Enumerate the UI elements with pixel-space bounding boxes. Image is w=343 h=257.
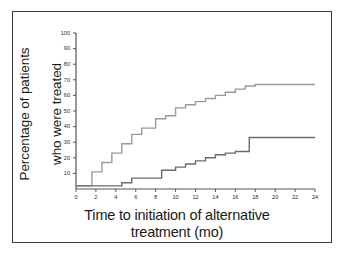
axis-lines — [76, 33, 315, 189]
x-tick-label: 20 — [269, 194, 281, 200]
x-tick-label: 8 — [150, 194, 162, 200]
y-tick-label: 40 — [56, 123, 70, 129]
x-tick-label: 14 — [209, 194, 221, 200]
y-tick-label: 60 — [56, 92, 70, 98]
y-tick-label: 50 — [56, 108, 70, 114]
x-tick-label: 12 — [190, 194, 202, 200]
x-tick-label: 0 — [70, 194, 82, 200]
x-axis-label-line1: Time to initiation of alternative — [41, 207, 313, 224]
chart-frame: Percentage of patients who were treated … — [12, 11, 332, 243]
series-upper-curve — [76, 84, 315, 185]
y-tick-label: 20 — [56, 155, 70, 161]
y-tick-label: 80 — [56, 61, 70, 67]
x-tick-label: 22 — [289, 194, 301, 200]
x-axis-label-line2: treatment (mo) — [41, 224, 313, 241]
x-axis-label: Time to initiation of alternative treatm… — [41, 207, 313, 241]
x-tick-label: 18 — [249, 194, 261, 200]
y-tick-label: 70 — [56, 77, 70, 83]
data-series-group — [76, 84, 315, 185]
x-tick-label: 16 — [229, 194, 241, 200]
x-tick-label: 10 — [170, 194, 182, 200]
y-tick-label: 100 — [56, 30, 70, 36]
x-tick-label: 24 — [309, 194, 321, 200]
y-tick-label: 30 — [56, 139, 70, 145]
figure-root: Percentage of patients who were treated … — [0, 0, 343, 257]
y-tick-label: 10 — [56, 170, 70, 176]
x-tick-label: 4 — [110, 194, 122, 200]
y-tick-label: 90 — [56, 45, 70, 51]
x-tick-label: 6 — [130, 194, 142, 200]
x-tick-label: 2 — [90, 194, 102, 200]
